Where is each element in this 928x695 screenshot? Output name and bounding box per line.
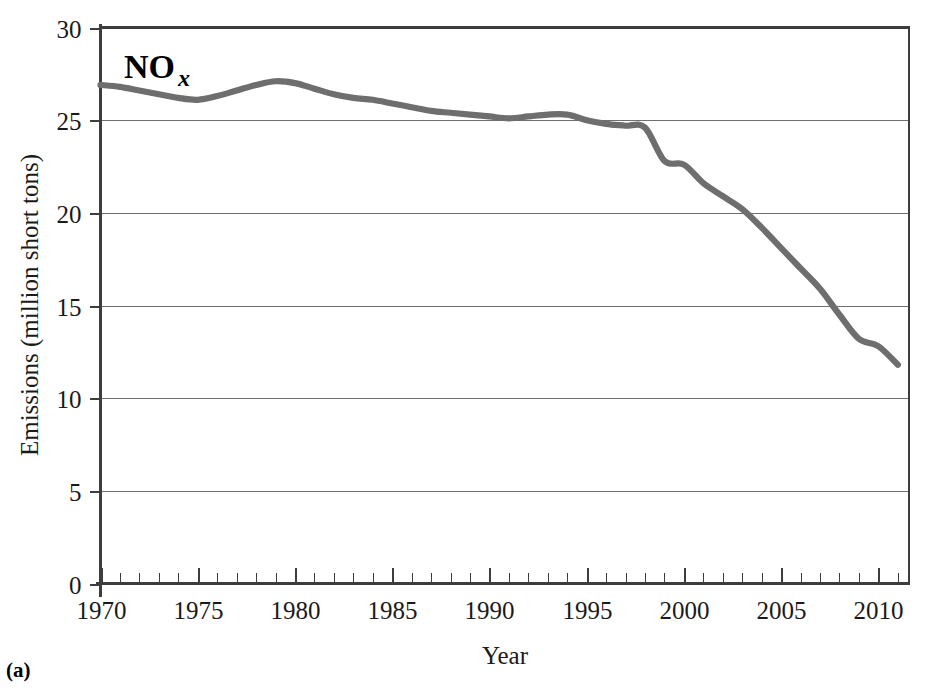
y-tick-label: 0 [69, 572, 82, 599]
x-tick-label: 1985 [368, 597, 418, 624]
y-axis-title: Emissions (million short tons) [16, 154, 44, 456]
panel-caption: (a) [6, 658, 31, 683]
x-tick-label: 1975 [174, 597, 224, 624]
y-tick-label: 20 [57, 201, 82, 228]
series-label-subscript-text: x [177, 65, 190, 91]
x-tick-label: 2010 [854, 597, 904, 624]
x-tick-label: 1995 [563, 597, 613, 624]
x-tick-label: 2005 [757, 597, 807, 624]
x-tick-label: 1970 [77, 597, 127, 624]
y-tick-label: 10 [57, 386, 82, 413]
y-tick-label: 15 [57, 294, 82, 321]
x-tick-label: 2000 [660, 597, 710, 624]
x-tick-label: 1990 [465, 597, 515, 624]
nox-emissions-line-chart: 051015202530 197019751980198519901995200… [0, 0, 928, 695]
figure-panel-a: 051015202530 197019751980198519901995200… [0, 0, 928, 695]
y-tick-label: 30 [57, 16, 82, 43]
chart-background [0, 0, 928, 695]
x-axis-tick-labels: 197019751980198519901995200020052010 [77, 597, 904, 624]
y-tick-label: 25 [57, 108, 82, 135]
series-label-main-text: NO [124, 48, 175, 85]
y-tick-label: 5 [69, 479, 82, 506]
x-axis-title: Year [482, 642, 529, 669]
x-tick-label: 1980 [271, 597, 321, 624]
